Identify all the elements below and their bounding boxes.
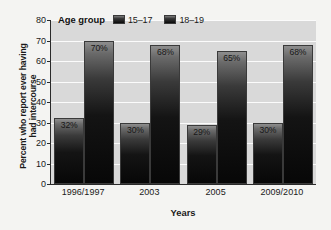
bar: 30% <box>253 123 283 185</box>
bar-group: 29%65% <box>187 20 247 184</box>
bar-value-label: 29% <box>188 128 216 137</box>
y-axis-tick-label: 10 <box>24 159 46 168</box>
y-axis-tick-label: 70 <box>24 36 46 45</box>
x-axis-title: Years <box>50 207 316 218</box>
bar: 30% <box>120 123 150 185</box>
bar-groups: 32%70%30%68%29%65%30%68% <box>51 20 316 184</box>
bar-value-label: 68% <box>284 48 312 57</box>
bar: 70% <box>84 41 114 185</box>
y-axis-tick-label: 40 <box>24 98 46 107</box>
y-axis-tick-label: 60 <box>24 57 46 66</box>
legend: Age group 15–17 18–19 <box>58 13 211 26</box>
y-axis-tick-label: 80 <box>24 16 46 25</box>
bar-value-label: 32% <box>55 121 83 130</box>
legend-title: Age group <box>58 14 105 25</box>
bar-value-label: 70% <box>85 44 113 53</box>
bar: 32% <box>54 118 84 184</box>
bar: 29% <box>187 125 217 184</box>
x-axis-tick-label: 2009/2010 <box>261 187 304 197</box>
y-axis-tick-label: 20 <box>24 139 46 148</box>
bar-value-label: 68% <box>151 48 179 57</box>
bar-group: 30%68% <box>120 20 180 184</box>
bar-group: 32%70% <box>54 20 114 184</box>
bar-group: 30%68% <box>253 20 313 184</box>
bar: 65% <box>217 51 247 184</box>
y-axis-tick-label: 50 <box>24 77 46 86</box>
x-axis-tick-label: 2005 <box>206 187 226 197</box>
bar: 68% <box>283 45 313 184</box>
y-axis-tick-labels: 01020304050607080 <box>22 0 46 230</box>
x-axis-tick-label: 1996/1997 <box>62 187 105 197</box>
legend-item-18-19: 18–19 <box>164 15 204 25</box>
legend-item-15-17: 15–17 <box>113 15 153 25</box>
legend-swatch-icon <box>164 15 176 24</box>
bar-value-label: 30% <box>254 126 282 135</box>
legend-label: 18–19 <box>179 15 204 25</box>
bar-chart: Percent who report ever having had inter… <box>0 0 331 230</box>
y-axis-tickmark <box>47 184 51 185</box>
plot-area: 32%70%30%68%29%65%30%68% <box>50 20 316 185</box>
y-axis-tick-label: 30 <box>24 118 46 127</box>
legend-label: 15–17 <box>128 15 153 25</box>
bar: 68% <box>150 45 180 184</box>
legend-swatch-icon <box>113 15 125 24</box>
y-axis-tick-label: 0 <box>24 180 46 189</box>
x-axis-tick-label: 2003 <box>139 187 159 197</box>
bar-value-label: 30% <box>121 126 149 135</box>
x-axis-tick-labels: 1996/1997200320052009/2010 <box>50 187 316 201</box>
bar-value-label: 65% <box>218 54 246 63</box>
